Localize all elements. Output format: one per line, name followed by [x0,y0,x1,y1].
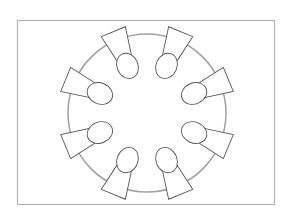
seating-diagram-canvas [0,0,292,221]
round-table [68,34,226,192]
seating-diagram [0,0,292,221]
